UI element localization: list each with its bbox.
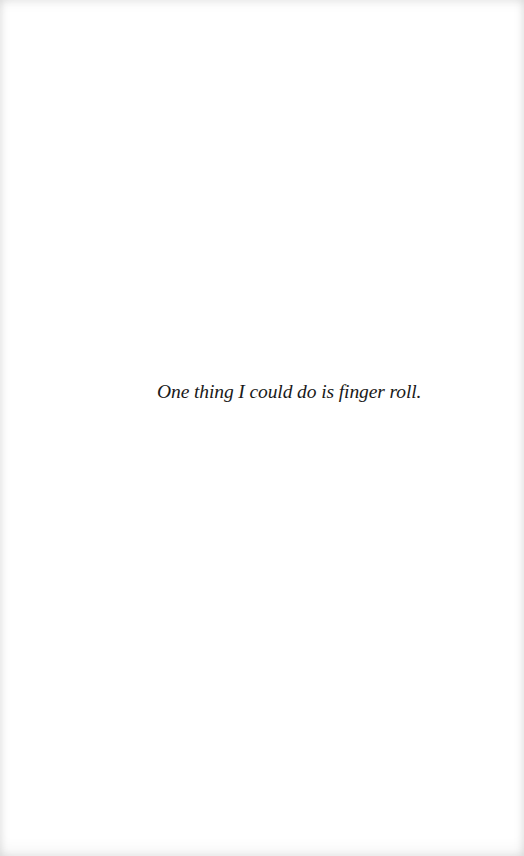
book-page: One thing I could do is finger roll. — [0, 0, 524, 856]
page-text-line: One thing I could do is finger roll. — [157, 380, 397, 404]
